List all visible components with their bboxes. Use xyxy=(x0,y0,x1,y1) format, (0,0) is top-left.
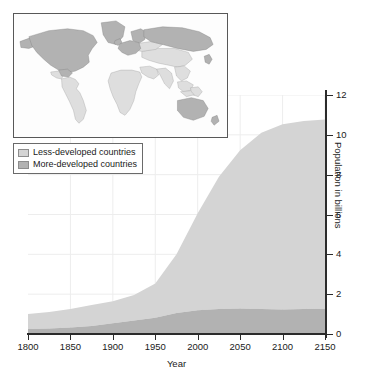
x-axis-label: Year xyxy=(0,359,353,369)
y-tick xyxy=(327,254,333,255)
world-map-svg xyxy=(14,14,227,137)
x-tick xyxy=(70,335,71,340)
x-tick xyxy=(325,335,326,340)
x-tick xyxy=(240,335,241,340)
x-tick-label: 2050 xyxy=(230,342,251,352)
x-axis-line xyxy=(27,333,326,335)
y-tick-label: 2 xyxy=(336,289,341,299)
legend-item: More-developed countries xyxy=(18,159,137,170)
world-map-inset xyxy=(13,13,228,138)
x-tick-label: 2100 xyxy=(272,342,293,352)
y-tick-label: 4 xyxy=(336,249,341,259)
y-tick-label: 12 xyxy=(336,90,347,100)
y-tick xyxy=(327,135,333,136)
x-tick xyxy=(28,335,29,340)
legend-label: Less-developed countries xyxy=(33,148,136,157)
x-tick-label: 1950 xyxy=(145,342,166,352)
x-tick-label: 2150 xyxy=(314,342,335,352)
x-tick xyxy=(155,335,156,340)
x-tick xyxy=(113,335,114,340)
x-tick xyxy=(198,335,199,340)
y-tick-label: 0 xyxy=(336,329,341,339)
x-tick-label: 1850 xyxy=(60,342,81,352)
x-tick-label: 2000 xyxy=(187,342,208,352)
population-area-chart: 024681012 180018501900195020002050210021… xyxy=(0,0,369,378)
y-tick xyxy=(327,294,333,295)
y-tick xyxy=(327,95,333,96)
figure-root: 024681012 180018501900195020002050210021… xyxy=(0,0,369,378)
legend-swatch-less-developed xyxy=(18,149,29,157)
legend-swatch-more-developed xyxy=(18,161,29,169)
legend: Less-developed countries More-developed … xyxy=(13,143,143,174)
y-tick-label: 10 xyxy=(336,130,347,140)
x-tick-label: 1800 xyxy=(17,342,38,352)
x-tick xyxy=(283,335,284,340)
y-tick xyxy=(327,334,333,335)
legend-item: Less-developed countries xyxy=(18,147,137,158)
x-tick-label: 1900 xyxy=(102,342,123,352)
y-axis-label: Population in billions xyxy=(333,142,343,229)
legend-label: More-developed countries xyxy=(33,160,137,169)
